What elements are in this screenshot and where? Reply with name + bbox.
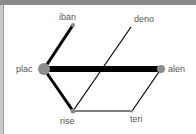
edges	[44, 25, 161, 111]
network-graph: iban deno plac alen rise teri	[0, 0, 196, 134]
label-iban: iban	[59, 12, 76, 22]
label-teri: teri	[130, 114, 143, 124]
node-iban	[71, 23, 75, 27]
edge-teri-alen	[132, 69, 161, 111]
label-rise: rise	[60, 116, 75, 126]
label-plac: plac	[16, 64, 33, 74]
edge-plac-rise	[44, 69, 73, 111]
node-teri	[131, 110, 134, 113]
node-plac	[38, 63, 50, 75]
label-alen: alen	[168, 64, 185, 74]
node-rise	[71, 109, 76, 114]
node-alen	[157, 65, 165, 73]
edge-plac-iban	[44, 25, 73, 69]
label-deno: deno	[134, 14, 154, 24]
